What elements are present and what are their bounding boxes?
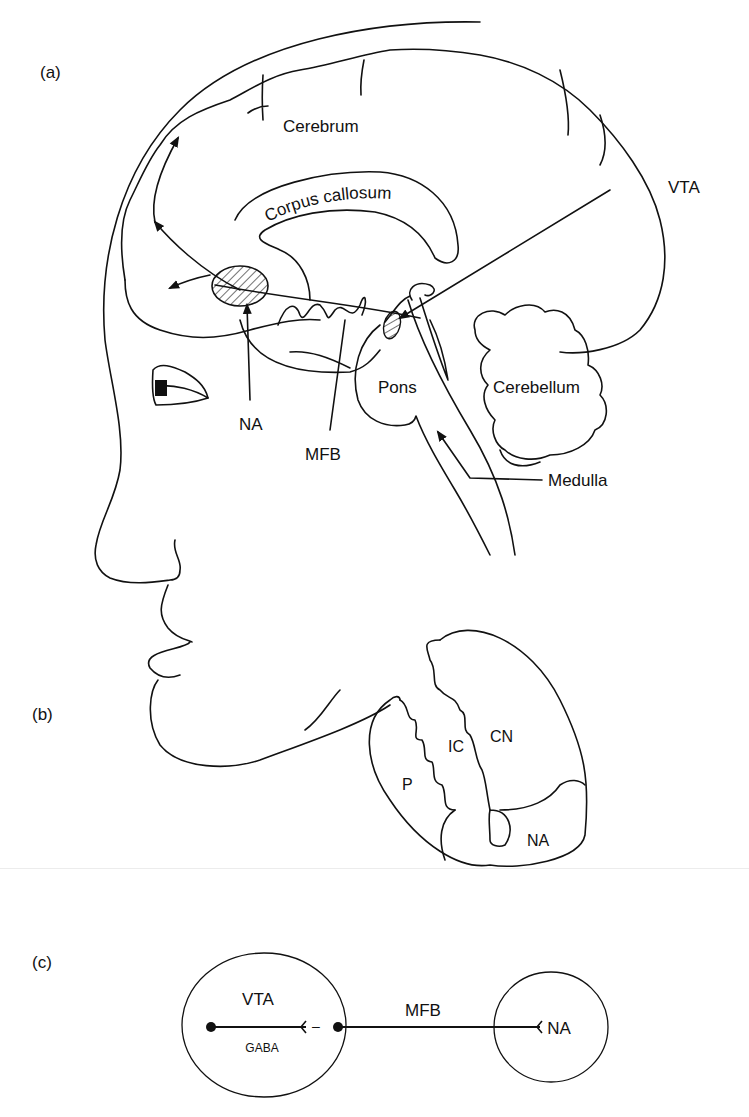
panel-c-label: (c) xyxy=(32,953,52,972)
cerebrum-label: Cerebrum xyxy=(283,117,359,136)
mfb-pathway-label: MFB xyxy=(405,1001,441,1020)
pons-outline xyxy=(355,325,490,555)
vta-pointer xyxy=(400,190,610,318)
region-p-label: P xyxy=(402,776,413,793)
region-na-label: NA xyxy=(527,832,550,849)
gaba-label: GABA xyxy=(245,1041,278,1055)
sulcus-2 xyxy=(361,60,364,95)
mfb-pointer xyxy=(330,320,345,430)
na-pointer xyxy=(247,305,250,400)
inhibition-sign: – xyxy=(312,1018,320,1034)
medulla-pointer xyxy=(438,432,542,480)
aqueduct xyxy=(420,298,448,380)
panel-b-label: (b) xyxy=(32,705,53,724)
projection-arrow-2 xyxy=(154,138,178,222)
sulcus-3 xyxy=(560,70,568,135)
mfb-label: MFB xyxy=(305,445,341,464)
region-cn-label: CN xyxy=(490,728,513,745)
na-label: NA xyxy=(239,415,263,434)
diagram-svg: (a) Corpus callosum Cerebrum xyxy=(0,0,749,1117)
eye-icon xyxy=(152,366,208,405)
corpus-callosum-label: Corpus callosum xyxy=(261,183,391,225)
cerebrum-outline xyxy=(122,49,665,353)
striatum-section: CN IC P NA xyxy=(369,630,586,866)
figure-canvas: (a) Corpus callosum Cerebrum xyxy=(0,0,749,1117)
medulla-label: Medulla xyxy=(548,471,608,490)
jaw-line xyxy=(305,690,340,730)
sulcus-4 xyxy=(600,115,605,165)
vta-node-label: VTA xyxy=(242,990,274,1009)
panel-a-label: (a) xyxy=(40,63,61,82)
circuit-diagram: VTA NA MFB GABA – xyxy=(182,953,608,1097)
pons-label: Pons xyxy=(378,378,417,397)
region-ic-label: IC xyxy=(448,738,464,755)
na-node-label: NA xyxy=(547,1019,571,1038)
brainstem-back xyxy=(408,300,515,555)
projection-arrow-3 xyxy=(170,275,210,288)
pineal-loop xyxy=(410,284,435,300)
cerebellum-label: Cerebellum xyxy=(493,378,580,397)
vta-label: VTA xyxy=(668,178,700,197)
